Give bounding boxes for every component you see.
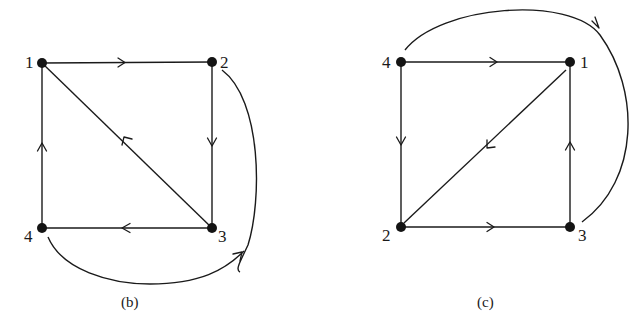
figure-canvas: 1 2 3 4 (b) 4 1 2 3 (c) (0, 0, 640, 335)
edge-b-2-curve (222, 70, 256, 272)
node-label: 1 (580, 53, 589, 72)
node-label: 4 (24, 227, 33, 246)
node-c-2 (396, 222, 406, 232)
node-label: 2 (220, 53, 229, 72)
caption-b: (b) (121, 294, 139, 311)
node-label: 3 (218, 227, 227, 246)
node-label: 1 (25, 53, 34, 72)
node-c-4 (396, 57, 406, 67)
node-b-1 (37, 58, 47, 68)
edge-b-3-1 (42, 63, 212, 228)
caption-c: (c) (477, 294, 494, 311)
node-label: 3 (578, 226, 587, 245)
node-b-4 (37, 223, 47, 233)
arrow-curve-icon (592, 17, 599, 28)
node-c-1 (565, 57, 575, 67)
node-label: 2 (382, 226, 391, 245)
graph-b: 1 2 3 4 (b) (24, 53, 256, 311)
edge-b-1-2 (42, 62, 212, 63)
node-b-2 (207, 57, 217, 67)
node-label: 4 (382, 53, 391, 72)
graph-c: 4 1 2 3 (c) (382, 10, 628, 311)
edge-c-1-2 (404, 70, 566, 223)
edge-b-4-3-curve (48, 237, 244, 284)
node-c-3 (565, 222, 575, 232)
node-b-3 (207, 223, 217, 233)
arrow-diagonal-icon (122, 137, 132, 145)
